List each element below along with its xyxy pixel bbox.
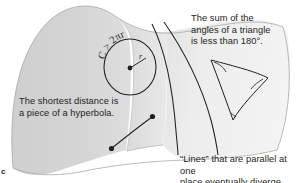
annotation-triangle-angle-sum: The sum of the angles of a triangle is l… [191,13,297,48]
annotation-parallel-lines: “Lines” that are parallel at one place e… [180,154,300,183]
geodesic-endpoint-lower [109,146,114,151]
figure-part-label: c [1,167,5,176]
hyperbolic-geometry-figure: r C > 2πr The s [0,0,300,183]
annotation-shortest-distance: The shortest distance is a piece of a hy… [19,96,155,119]
